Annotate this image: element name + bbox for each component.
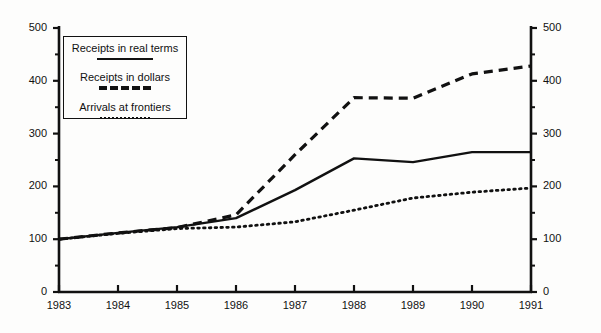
x-axis-label: 1991 <box>506 299 556 311</box>
y-axis-label-right: 300 <box>543 127 577 139</box>
x-axis-label: 1989 <box>388 299 438 311</box>
legend: Receipts in real terms Receipts in dolla… <box>63 36 187 119</box>
y-axis-label-right: 400 <box>543 74 577 86</box>
y-axis-label-left: 500 <box>13 21 47 33</box>
legend-label-arrivals-frontiers: Arrivals at frontiers <box>64 101 186 114</box>
legend-label-receipts-real-terms: Receipts in real terms <box>64 42 186 55</box>
x-axis-label: 1986 <box>211 299 261 311</box>
y-axis-label-left: 0 <box>13 285 47 297</box>
x-axis-label: 1990 <box>447 299 497 311</box>
y-axis-label-right: 0 <box>543 285 577 297</box>
x-axis-label: 1984 <box>93 299 143 311</box>
y-axis-label-right: 100 <box>543 232 577 244</box>
y-axis-label-left: 200 <box>13 179 47 191</box>
legend-entry-arrivals-frontiers: Arrivals at frontiers <box>64 101 186 125</box>
legend-label-receipts-dollars: Receipts in dollars <box>64 71 186 84</box>
legend-swatch-solid-line <box>97 58 153 66</box>
series-line-solid <box>59 152 531 239</box>
y-axis-label-left: 300 <box>13 127 47 139</box>
y-axis-label-right: 200 <box>543 179 577 191</box>
x-axis-label: 1988 <box>329 299 379 311</box>
legend-entry-receipts-real-terms: Receipts in real terms <box>64 42 186 66</box>
y-axis-label-left: 100 <box>13 232 47 244</box>
legend-swatch-dotted-line <box>100 117 150 125</box>
x-axis-label: 1983 <box>34 299 84 311</box>
x-axis-label: 1987 <box>270 299 320 311</box>
legend-entry-receipts-dollars: Receipts in dollars <box>64 71 186 96</box>
legend-swatch-dashed-line <box>99 86 151 96</box>
y-axis-label-left: 400 <box>13 74 47 86</box>
chart-container: 0100200300400500 0100200300400500 198319… <box>0 0 601 333</box>
x-axis-label: 1985 <box>152 299 202 311</box>
series-line-dotted <box>59 188 531 239</box>
y-axis-label-right: 500 <box>543 21 577 33</box>
